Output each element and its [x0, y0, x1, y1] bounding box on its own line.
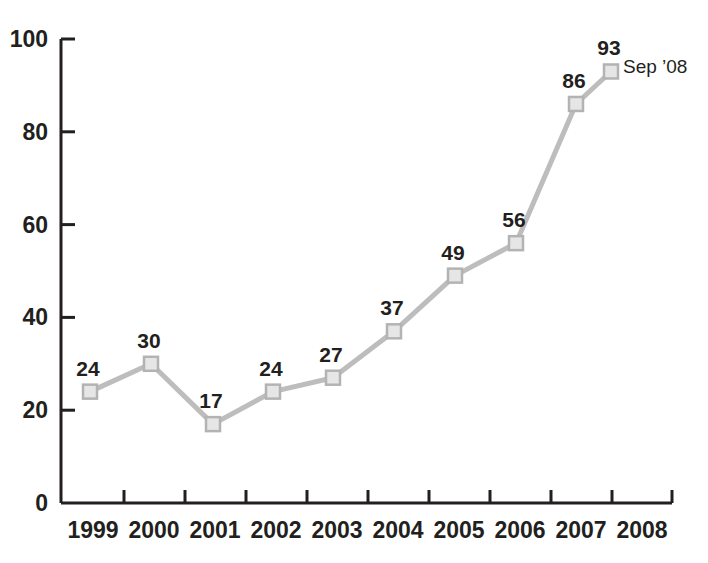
data-point-marker	[266, 385, 280, 399]
data-point-marker	[206, 417, 220, 431]
y-axis-tick-labels: 020406080100	[10, 26, 48, 516]
line-chart: 020406080100 199920002001200220032004200…	[0, 0, 708, 563]
data-line-series-1	[90, 71, 611, 424]
x-axis-tick-label: 2008	[616, 517, 667, 543]
x-axis-tick-label: 2000	[128, 517, 179, 543]
y-axis-tick-label: 60	[22, 212, 48, 238]
data-point-value-label: 27	[319, 343, 342, 366]
chart-canvas: 020406080100 199920002001200220032004200…	[0, 0, 708, 563]
x-axis-tick-label: 2003	[311, 517, 362, 543]
y-axis-tick-label: 80	[22, 119, 48, 145]
data-point-marker	[387, 324, 401, 338]
x-axis-tick-label: 2004	[372, 517, 423, 543]
data-point-value-label: 86	[562, 69, 585, 92]
x-axis-tick-label: 2002	[250, 517, 301, 543]
data-point-value-label: 17	[199, 389, 222, 412]
data-point-value-label: 30	[137, 329, 160, 352]
y-axis-tick-label: 40	[22, 304, 48, 330]
last-point-annotation-label: Sep ’08	[623, 56, 687, 77]
y-axis-tick-label: 20	[22, 397, 48, 423]
y-axis-tick-label: 100	[10, 26, 48, 52]
data-point-marker	[569, 97, 583, 111]
x-axis-ticks	[124, 490, 672, 503]
data-point-marker	[509, 236, 523, 250]
data-point-marker	[448, 269, 462, 283]
x-axis-tick-label: 2006	[494, 517, 545, 543]
data-point-value-label: 24	[259, 357, 283, 380]
data-point-marker	[144, 357, 158, 371]
x-axis-tick-labels: 1999200020012002200320042005200620072008	[67, 517, 667, 543]
data-point-value-label: 24	[76, 357, 100, 380]
x-axis-tick-label: 2005	[433, 517, 484, 543]
data-point-marker	[83, 385, 97, 399]
x-axis-tick-label: 1999	[67, 517, 118, 543]
data-point-value-label: 93	[597, 36, 620, 59]
y-axis-tick-label: 0	[35, 490, 48, 516]
y-axis-ticks	[61, 39, 75, 410]
data-point-value-label: 56	[502, 208, 525, 231]
data-point-marker	[604, 64, 618, 78]
data-point-value-label: 49	[441, 241, 464, 264]
data-point-value-label: 37	[380, 296, 403, 319]
data-line-path	[90, 71, 611, 424]
x-axis-tick-label: 2007	[555, 517, 606, 543]
x-axis-tick-label: 2001	[189, 517, 240, 543]
data-point-marker	[326, 371, 340, 385]
